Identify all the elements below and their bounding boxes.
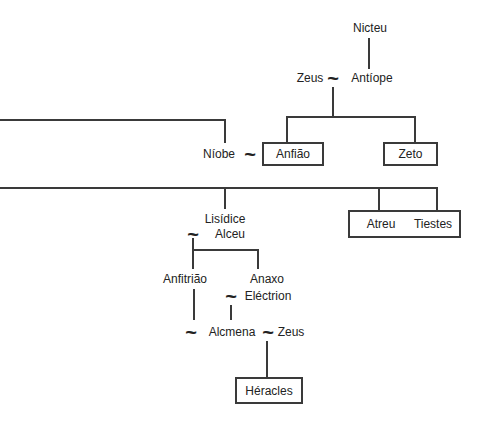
- person-nicteu: Nicteu: [353, 21, 387, 35]
- node-box-anfiao: Anfião: [262, 142, 324, 166]
- person-anfitriao: Anfitrião: [163, 272, 207, 286]
- person-alceu: Alceu: [215, 227, 245, 241]
- connector-atreu-drop: [378, 187, 380, 211]
- marriage-tilde-anfitriao-alcmena: ~: [185, 322, 197, 342]
- marriage-tilde-alcmena-zeus: ~: [262, 322, 274, 342]
- marriage-tilde-anaxo-electrion: ~: [225, 286, 237, 306]
- connector-zeus-heracles: [266, 341, 268, 377]
- connector-niobe-drop: [224, 119, 226, 143]
- connector-anfitriao-down: [193, 289, 195, 320]
- marriage-tilde-niobe-anfiao: ~: [244, 144, 256, 164]
- connector-couple-bar: [192, 249, 259, 251]
- person-electrion: Eléctrion: [245, 289, 292, 303]
- family-tree-canvas: Nicteu Zeus ~ Antíope Níobe ~ Anfião Zet…: [0, 0, 486, 433]
- node-box-zeto: Zeto: [383, 142, 438, 166]
- person-heracles: Héracles: [245, 384, 292, 398]
- person-anaxo: Anaxo: [250, 272, 284, 286]
- connector-lisidice-drop: [224, 187, 226, 209]
- marriage-tilde-zeus-antiope: ~: [327, 68, 339, 88]
- node-box-atreu-tiestes: Atreu Tiestes: [348, 210, 461, 238]
- connector-electrion-down: [230, 305, 232, 320]
- connector-anfiao-drop: [286, 116, 288, 143]
- person-lisidice: Lisídice: [205, 212, 246, 226]
- person-alcmena: Alcmena: [209, 325, 256, 339]
- marriage-tilde-lisidice-alceu: ~: [187, 224, 199, 244]
- person-zeus-bottom: Zeus: [278, 325, 305, 339]
- person-atreu: Atreu: [367, 217, 396, 231]
- person-tiestes: Tiestes: [414, 217, 452, 231]
- person-zeto: Zeto: [398, 147, 422, 161]
- person-zeus-top: Zeus: [297, 71, 324, 85]
- connector-left-branch: [0, 119, 226, 121]
- connector-long-branch: [0, 187, 438, 189]
- connector-nicteu-antiope: [368, 38, 370, 69]
- connector-anaxo-drop: [257, 249, 259, 269]
- connector-anfitriao-drop: [192, 249, 194, 269]
- person-niobe: Níobe: [203, 147, 235, 161]
- connector-anfiao-zeto-bar: [286, 116, 416, 118]
- person-antiope: Antíope: [351, 71, 392, 85]
- connector-tiestes-drop: [436, 187, 438, 211]
- person-anfiao: Anfião: [276, 147, 310, 161]
- connector-zeto-drop: [414, 116, 416, 143]
- connector-zeus-antiope-down: [332, 87, 334, 117]
- node-box-heracles: Héracles: [235, 377, 303, 404]
